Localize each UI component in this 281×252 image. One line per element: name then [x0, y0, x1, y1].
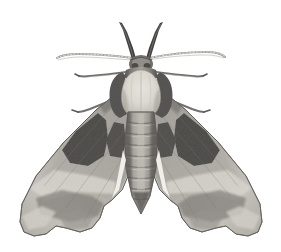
- halftone-overlay: [0, 0, 281, 252]
- image-canvas: [0, 0, 281, 252]
- moth-illustration: [0, 0, 281, 252]
